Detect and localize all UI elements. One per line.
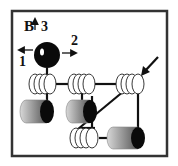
ball [34,42,60,68]
roller-group-1 [29,74,56,94]
roller-group-4 [70,128,98,148]
roller-group-3 [116,74,144,94]
cylinder-2 [66,100,97,123]
ball-label: B [24,18,34,34]
roller-group-2 [68,74,95,94]
direction-3-label: 3 [41,19,48,34]
cylinder-3 [107,127,145,149]
cylinder-1 [20,100,54,123]
direction-1-label: 1 [19,54,26,69]
direction-2-label: 2 [71,33,78,48]
input-arrow [141,57,158,76]
mechanism-diagram: B 3 2 1 [0,0,178,166]
